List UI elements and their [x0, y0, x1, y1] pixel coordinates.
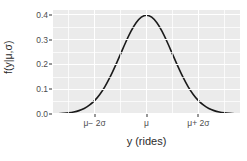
y-axis-tick-labels: 0.00.10.20.30.4 [18, 10, 48, 114]
gridline-major-vertical [94, 10, 95, 114]
x-axis-title: y (rides) [53, 136, 240, 147]
x-axis-tick-label: μ+ 2σ [187, 119, 209, 128]
y-axis-title-text: f(y|μ,σ) [4, 40, 15, 73]
normal-density-chart: f(y|μ,σ) 0.00.10.20.30.4 y (rides) μ− 2σ… [0, 0, 247, 161]
x-axis-tick-label: μ [144, 119, 149, 128]
y-axis-tick-label: 0.4 [18, 11, 48, 20]
gridline-minor-vertical [172, 10, 173, 114]
y-axis-tick-mark [49, 39, 52, 40]
y-axis-tick-label: 0.3 [18, 35, 48, 44]
y-axis-tick-mark [49, 114, 52, 115]
x-axis-tick-mark [146, 114, 147, 117]
y-axis-tick-label: 0.0 [18, 110, 48, 119]
y-axis-title: f(y|μ,σ) [0, 0, 18, 114]
y-axis-tick-mark [49, 64, 52, 65]
y-axis-tick-label: 0.1 [18, 85, 48, 94]
y-axis-tick-mark [49, 89, 52, 90]
y-axis-tick-label: 0.2 [18, 60, 48, 69]
gridline-major-vertical [146, 10, 147, 114]
x-axis-tick-mark [94, 114, 95, 117]
gridline-major-vertical [198, 10, 199, 114]
x-axis-tick-mark [198, 114, 199, 117]
plot-panel [53, 10, 240, 114]
gridline-minor-vertical [120, 10, 121, 114]
gridline-minor-vertical [68, 10, 69, 114]
x-axis-tick-label: μ− 2σ [83, 119, 105, 128]
gridline-minor-vertical [224, 10, 225, 114]
y-axis-tick-mark [49, 14, 52, 15]
x-axis-title-text: y (rides) [127, 135, 167, 147]
